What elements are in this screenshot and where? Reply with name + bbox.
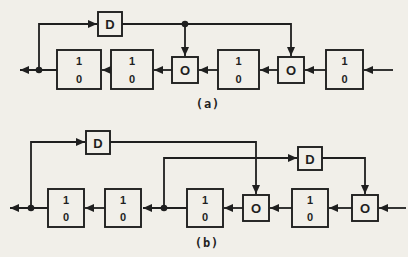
mod2-adder-label: O xyxy=(251,201,261,216)
mod2-adder-label: O xyxy=(180,63,190,78)
subfigure-label: (b) xyxy=(195,236,220,250)
cell-bottom-bit: 0 xyxy=(63,211,69,223)
cell-bottom-bit: 0 xyxy=(129,73,135,85)
cell-top-bit: 1 xyxy=(341,55,347,67)
cell-top-bit: 1 xyxy=(63,194,69,206)
cell-top-bit: 1 xyxy=(76,55,82,67)
cell-bottom-bit: 0 xyxy=(341,73,347,85)
cell-bottom-bit: 0 xyxy=(202,211,208,223)
cell-top-bit: 1 xyxy=(235,55,241,67)
subfigure-label: (a) xyxy=(196,97,221,111)
cell-bottom-bit: 0 xyxy=(120,211,126,223)
cell-bottom-bit: 0 xyxy=(235,73,241,85)
junction-dot xyxy=(36,67,43,74)
figure-canvas: 10101010OOD(a)10101010OODD(b) xyxy=(0,0,408,257)
cell-top-bit: 1 xyxy=(120,194,126,206)
junction-dot xyxy=(28,205,35,212)
mod2-adder-label: O xyxy=(286,63,296,78)
cell-top-bit: 1 xyxy=(129,55,135,67)
cell-bottom-bit: 0 xyxy=(76,73,82,85)
junction-dot xyxy=(182,21,189,28)
scanned-figure: 10101010OOD(a)10101010OODD(b) xyxy=(0,0,408,257)
signal-wire xyxy=(110,142,256,194)
mod2-adder-label: O xyxy=(360,201,370,216)
delay-label: D xyxy=(93,136,102,151)
delay-label: D xyxy=(305,152,314,167)
diagram-a: 10101010OOD(a) xyxy=(20,12,393,111)
delay-label: D xyxy=(105,17,114,32)
diagram-b: 10101010OODD(b) xyxy=(10,131,406,250)
cell-top-bit: 1 xyxy=(202,194,208,206)
cell-top-bit: 1 xyxy=(307,194,313,206)
junction-dot xyxy=(161,205,168,212)
cell-bottom-bit: 0 xyxy=(307,211,313,223)
signal-wire xyxy=(164,158,297,208)
